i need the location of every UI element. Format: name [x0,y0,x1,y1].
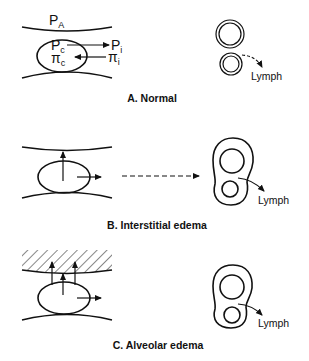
label-pa: PA [49,12,64,30]
swollen-interstitium [213,138,253,205]
panel-a-normal: PA Pc πc Pi πi Lymph A. Normal [22,12,282,104]
panel-c-alveolar-edema: Lymph C. Alveolar edema [22,250,289,351]
alveolus-capillary-c [22,250,112,320]
lymph-label-c: Lymph [258,317,289,329]
panel-b-interstitial-edema: Lymph B. Interstitial edema [22,138,289,231]
alveolar-wall-bottom [22,72,112,78]
lymph-arrow [238,304,262,315]
flooded-alveolus-hatch [22,250,112,274]
lymph-label-a: Lymph [251,70,282,82]
alveoli-cross-section-c: Lymph [213,265,289,329]
caption-c: C. Alveolar edema [113,339,204,351]
alveolus-capillary-b [22,147,112,198]
alveolar-wall-top [22,147,112,151]
alveolar-wall-top [22,27,112,31]
lymph-arrow [238,178,264,191]
alveoli-cross-section-a: Lymph [216,20,282,82]
alveoli-cross-section-b: Lymph [213,138,289,206]
pulmonary-edema-diagram: PA Pc πc Pi πi Lymph A. Normal [0,0,309,361]
caption-a: A. Normal [127,92,177,104]
alveolar-wall-bottom [22,315,112,321]
alveolus-capillary-a: PA Pc πc Pi πi [22,12,122,78]
lymph-label-b: Lymph [258,194,289,206]
caption-b: B. Interstitial edema [107,219,207,231]
lymph-arrow-dashed [242,55,262,67]
